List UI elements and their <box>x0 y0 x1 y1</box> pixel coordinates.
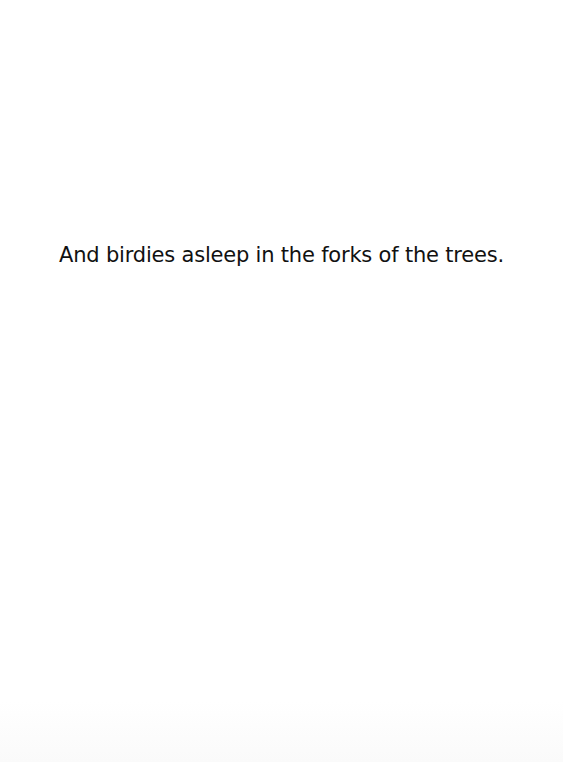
page-text-line: And birdies asleep in the forks of the t… <box>0 238 563 272</box>
book-page: And birdies asleep in the forks of the t… <box>0 0 563 762</box>
